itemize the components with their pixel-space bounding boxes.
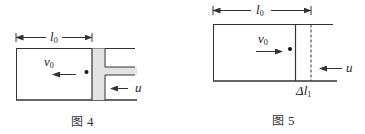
cylinder (213, 24, 337, 81)
fig4-length-label: l0 (50, 30, 58, 45)
fig4-piston-velocity-label: u (135, 81, 142, 94)
particle-dot (288, 47, 292, 51)
fig5-piston-velocity-label: u (346, 61, 353, 74)
fig5-length-label: l0 (256, 3, 264, 18)
fig5-caption: 图5 (272, 114, 295, 127)
particle-dot (85, 70, 89, 74)
fig4-velocity-label: v0 (44, 55, 54, 70)
figure-5 (213, 6, 342, 81)
piston (92, 49, 137, 101)
fig4-caption: 图4 (71, 115, 94, 128)
figure-4 (16, 33, 137, 100)
diagram-canvas (0, 0, 365, 134)
fig5-velocity-label: v0 (258, 32, 268, 47)
fig5-displacement-label: Δl1 (296, 84, 311, 99)
